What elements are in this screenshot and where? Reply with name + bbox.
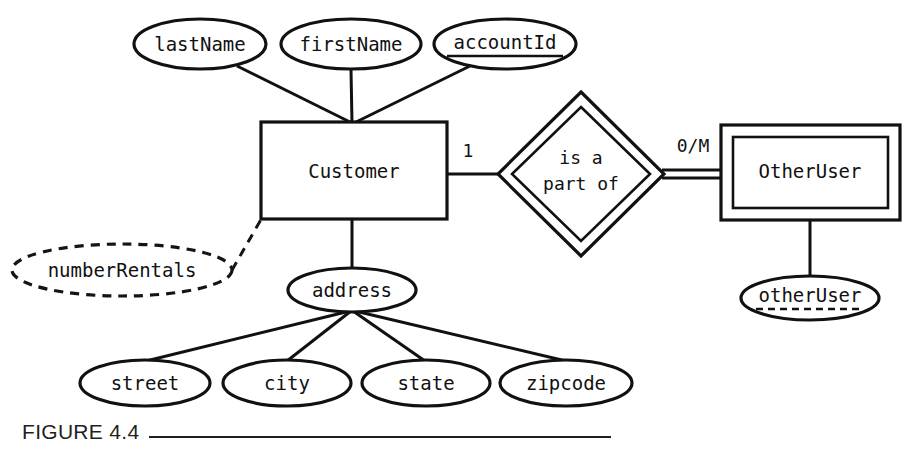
cardinality-one-label: 1 xyxy=(463,140,474,161)
attribute-label: city xyxy=(264,372,310,394)
relationship-is-a-part-of[interactable]: is a part of xyxy=(498,92,664,256)
figure-caption: FIGURE 4.4 xyxy=(22,415,902,449)
connector-accountid-customer xyxy=(354,66,470,123)
attribute-firstname[interactable]: firstName xyxy=(281,19,421,69)
attribute-address[interactable]: address xyxy=(288,268,416,312)
er-diagram-svg: lastName firstName accountId Customer nu… xyxy=(0,0,918,453)
entity-otheruser[interactable]: OtherUser xyxy=(721,125,900,220)
figure-caption-label: FIGURE 4.4 xyxy=(22,420,139,444)
attribute-label: firstName xyxy=(300,33,403,55)
entity-label: OtherUser xyxy=(759,160,862,182)
attribute-label: street xyxy=(111,372,180,394)
entity-label: Customer xyxy=(308,160,400,182)
entity-customer[interactable]: Customer xyxy=(261,122,447,219)
relationship-label-line2: part of xyxy=(543,173,619,194)
connector-numberrentals-customer xyxy=(232,216,263,270)
attribute-zipcode[interactable]: zipcode xyxy=(500,360,632,406)
cardinality-zero-m-label: 0/M xyxy=(677,135,710,156)
attribute-label: zipcode xyxy=(526,372,606,394)
connector-layer xyxy=(146,66,810,361)
attribute-lastname[interactable]: lastName xyxy=(134,19,266,69)
attribute-city[interactable]: city xyxy=(223,360,351,406)
connector-firstname-customer xyxy=(351,70,352,123)
relationship-label-line1: is a xyxy=(559,147,602,168)
connector-lastname-customer xyxy=(237,66,352,123)
er-diagram-canvas: lastName firstName accountId Customer nu… xyxy=(0,0,918,453)
attribute-numberrentals[interactable]: numberRentals xyxy=(12,244,232,296)
attribute-label: state xyxy=(397,372,454,394)
attribute-otheruser[interactable]: otherUser xyxy=(741,276,879,320)
figure-caption-rule xyxy=(149,436,611,438)
attribute-label: lastName xyxy=(154,33,246,55)
attribute-label: address xyxy=(312,279,392,301)
attribute-state[interactable]: state xyxy=(362,360,490,406)
attribute-label: otherUser xyxy=(759,284,862,306)
attribute-label: numberRentals xyxy=(48,259,197,281)
attribute-accountid[interactable]: accountId xyxy=(434,19,576,69)
attribute-label: accountId xyxy=(454,31,557,53)
attribute-street[interactable]: street xyxy=(80,360,210,406)
